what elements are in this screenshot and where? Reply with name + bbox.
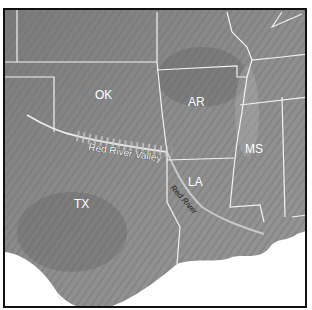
shaded-relief-map: OK AR MS LA TX Red River Valley Red Rive…: [5, 10, 307, 308]
map-frame: OK AR MS LA TX Red River Valley Red Rive…: [3, 8, 307, 308]
state-label-ms: MS: [245, 142, 263, 156]
state-label-ar: AR: [188, 95, 205, 109]
state-label-tx: TX: [74, 197, 89, 211]
hill-country-relief: [17, 192, 127, 272]
state-label-la: LA: [188, 175, 203, 189]
state-label-ok: OK: [95, 88, 112, 102]
